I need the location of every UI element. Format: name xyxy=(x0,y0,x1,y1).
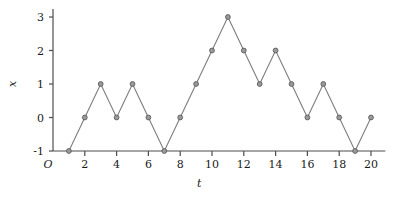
data-point xyxy=(130,82,135,87)
data-point xyxy=(67,149,72,154)
data-point xyxy=(82,115,87,120)
y-axis-title: x xyxy=(6,80,19,87)
data-point xyxy=(226,15,231,20)
y-tick-label: 2 xyxy=(37,45,44,58)
y-tick-label: -1 xyxy=(33,145,44,158)
data-point xyxy=(98,82,103,87)
x-tick-label: 14 xyxy=(269,158,283,171)
data-point xyxy=(162,149,167,154)
data-point xyxy=(321,82,326,87)
y-tick-label: 1 xyxy=(37,78,44,91)
data-point xyxy=(289,82,294,87)
data-point xyxy=(114,115,119,120)
data-point xyxy=(210,48,215,53)
data-point xyxy=(353,149,358,154)
origin-label: O xyxy=(43,158,52,171)
x-tick-label: 8 xyxy=(177,158,184,171)
x-tick-label: 20 xyxy=(364,158,378,171)
data-point xyxy=(273,48,278,53)
x-tick-label: 4 xyxy=(113,158,120,171)
data-point xyxy=(194,82,199,87)
x-tick-label: 2 xyxy=(81,158,88,171)
x-tick-label: 10 xyxy=(205,158,219,171)
x-axis-ticks xyxy=(85,151,371,156)
y-axis-tick-labels: -10123 xyxy=(33,11,44,158)
chart-canvas: -10123 2468101214161820 x t O xyxy=(0,0,407,200)
data-point xyxy=(241,48,246,53)
x-axis-title: t xyxy=(197,177,202,190)
x-tick-label: 18 xyxy=(332,158,346,171)
data-point xyxy=(146,115,151,120)
x-axis-tick-labels: 2468101214161820 xyxy=(81,158,378,171)
data-point xyxy=(337,115,342,120)
y-tick-label: 3 xyxy=(37,11,44,24)
line-chart: -10123 2468101214161820 x t O xyxy=(0,0,407,200)
x-tick-label: 16 xyxy=(300,158,314,171)
x-tick-label: 12 xyxy=(237,158,251,171)
y-tick-label: 0 xyxy=(37,112,44,125)
data-point xyxy=(305,115,310,120)
data-point xyxy=(178,115,183,120)
x-tick-label: 6 xyxy=(145,158,152,171)
data-point xyxy=(369,115,374,120)
data-point-markers xyxy=(67,15,374,154)
data-point xyxy=(257,82,262,87)
